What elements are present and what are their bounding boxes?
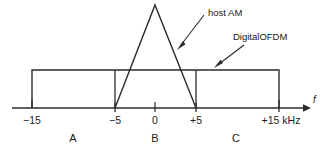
axis-variable-label: f: [313, 94, 317, 105]
tick-label-neg15: −15: [23, 114, 41, 126]
host-am-callout-label: host AM: [208, 7, 242, 18]
digital-ofdm-arrowhead-icon: [214, 60, 223, 68]
region-labels: A B C: [69, 132, 240, 144]
tick-label-pos5: +5: [190, 114, 202, 126]
region-label-c: C: [232, 132, 240, 144]
host-am-outline: [115, 5, 196, 108]
frequency-axis: f: [12, 94, 317, 112]
spectrum-diagram-figure: f −15 −5 0 +5 +15 kHz: [0, 0, 321, 148]
host-am-arrowhead-icon: [177, 41, 186, 50]
tick-label-neg5: −5: [109, 114, 121, 126]
host-am-leader-line: [181, 15, 204, 45]
region-label-a: A: [69, 132, 77, 144]
region-label-b: B: [151, 132, 158, 144]
callout-host-am: host AM: [177, 7, 242, 50]
host-am-triangle: [115, 5, 196, 108]
axis-tick-marks: [32, 100, 279, 112]
tick-label-pos15: +15 kHz: [262, 114, 301, 126]
digital-ofdm-callout-label: DigitalOFDM: [233, 31, 287, 42]
tick-label-zero: 0: [152, 114, 158, 126]
axis-tick-labels: −15 −5 0 +5 +15 kHz: [23, 114, 300, 126]
callout-digital-ofdm: DigitalOFDM: [214, 31, 287, 68]
axis-arrowhead-icon: [303, 104, 311, 112]
diagram-canvas: f −15 −5 0 +5 +15 kHz: [0, 0, 321, 148]
digital-ofdm-leader-line: [219, 45, 244, 64]
